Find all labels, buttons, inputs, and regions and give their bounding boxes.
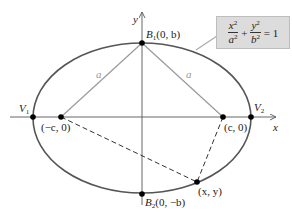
v2-label: V2 [254, 101, 265, 115]
focus-right-label: (c, 0) [224, 121, 248, 134]
ellipse-equation-box: x2 a2 + y2 b2 = 1 [216, 16, 290, 49]
ellipse-diagram: y x V1 V2 B1(0, b) B2(0, −b) (−c, 0) (c,… [0, 0, 292, 221]
vertex-v2-point [248, 114, 254, 120]
y-axis-label: y [132, 13, 138, 25]
left-focal-segment-a [61, 43, 142, 117]
left-focal-dashed-line [61, 117, 197, 182]
covertex-b2-point [139, 191, 145, 197]
covertex-b1-point [139, 40, 145, 46]
focus-left-label: (−c, 0) [41, 121, 71, 134]
equals-one: = 1 [264, 27, 278, 39]
right-focal-dashed-line [197, 117, 223, 182]
b1-label: B1(0, b) [146, 28, 180, 42]
right-focal-segment-a [142, 43, 223, 117]
x-squared-over-a-squared: x2 a2 [228, 20, 238, 45]
focus-right-point [220, 114, 226, 120]
b2-label: B2(0, −b) [145, 196, 186, 210]
v1-label: V1 [19, 102, 30, 116]
formula-leader-line [196, 36, 217, 50]
y-squared-over-b-squared: y2 b2 [250, 20, 260, 45]
point-p-label: (x, y) [198, 185, 222, 198]
focus-left-point [58, 114, 64, 120]
x-axis-label: x [272, 121, 278, 133]
vertex-v1-point [30, 114, 36, 120]
left-segment-a-label: a [96, 68, 102, 80]
ellipse-point-p [194, 179, 200, 185]
plus-sign: + [241, 27, 247, 39]
right-segment-a-label: a [186, 68, 192, 80]
